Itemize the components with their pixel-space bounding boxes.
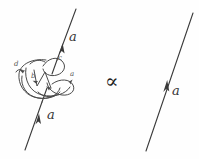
right-line <box>146 13 193 151</box>
knot-diagram-svg <box>0 0 199 159</box>
right-term-group <box>146 13 193 151</box>
left-line-lower-segment <box>25 102 42 150</box>
arrowhead-upper-left <box>59 43 65 54</box>
left-term-group <box>16 9 76 150</box>
label-d: d <box>14 61 18 68</box>
label-a-upper-left: a <box>69 30 77 43</box>
label-b: b <box>31 73 35 80</box>
label-a-lower-left: a <box>47 108 55 121</box>
figure-canvas: a a d b c a ∝ a <box>0 0 199 159</box>
label-a-tangle: a <box>70 71 74 78</box>
arrowhead-d <box>20 70 25 74</box>
proportional-to-symbol: ∝ <box>105 71 119 91</box>
arrowhead-b <box>33 81 38 84</box>
label-c: c <box>58 55 62 62</box>
label-a-right: a <box>172 84 180 97</box>
